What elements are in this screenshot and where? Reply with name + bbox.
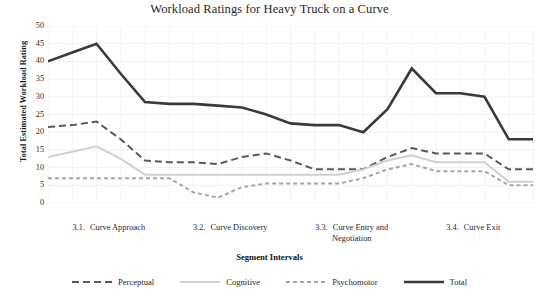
y-axis-tick-15: 15 <box>36 146 44 154</box>
y-axis-tick-40: 40 <box>36 57 44 65</box>
y-axis-tick-5: 5 <box>40 181 44 189</box>
y-axis-tick-45: 45 <box>36 40 44 48</box>
y-axis-tick-20: 20 <box>36 128 44 136</box>
x-axis-group-number: 3.3. <box>315 223 328 232</box>
x-axis-group-label: Curve Discovery <box>211 223 268 232</box>
y-axis-tick-50: 50 <box>36 22 44 30</box>
legend-item-total[interactable]: Total <box>404 277 468 287</box>
legend-item-psychomotor[interactable]: Psychomotor <box>286 277 377 287</box>
x-axis-group-label: Curve Exit <box>464 223 501 232</box>
x-axis-group-label-line2: Negotiation <box>291 233 413 244</box>
y-axis-tick-0: 0 <box>40 199 44 207</box>
legend-item-cognitive[interactable]: Cognitive <box>180 277 260 287</box>
x-axis-group-number: 3.2. <box>193 223 206 232</box>
plot-area <box>48 26 534 203</box>
legend-label-total: Total <box>450 277 468 287</box>
x-axis-title: Segment Intervals <box>0 252 539 262</box>
x-axis-group-label: Curve Approach <box>90 223 145 232</box>
legend-swatch-psychomotor-icon <box>286 277 326 287</box>
y-axis-tick-35: 35 <box>36 75 44 83</box>
x-axis-group-2: 3.2.Curve Discovery <box>170 222 292 233</box>
legend-swatch-cognitive-icon <box>180 277 220 287</box>
x-axis-group-3: 3.3.Curve Entry andNegotiation <box>291 222 413 244</box>
legend-label-perceptual: Perceptual <box>118 277 154 287</box>
gridlines <box>48 26 534 203</box>
y-axis-tick-10: 10 <box>36 163 44 171</box>
x-axis-group-4: 3.4.Curve Exit <box>413 222 535 233</box>
x-axis-group-number: 3.4. <box>446 223 459 232</box>
chart-title: Workload Ratings for Heavy Truck on a Cu… <box>0 2 539 17</box>
x-axis-group-labels: 3.1.Curve Approach3.2.Curve Discovery3.3… <box>0 222 539 256</box>
legend-swatch-perceptual-icon <box>72 277 112 287</box>
x-axis-group-1: 3.1.Curve Approach <box>48 222 170 233</box>
legend-item-perceptual[interactable]: Perceptual <box>72 277 154 287</box>
y-axis-tick-30: 30 <box>36 93 44 101</box>
x-axis-group-number: 3.1. <box>72 223 85 232</box>
y-axis-tick-25: 25 <box>36 110 44 118</box>
legend-label-psychomotor: Psychomotor <box>332 277 377 287</box>
legend-label-cognitive: Cognitive <box>226 277 260 287</box>
x-axis-group-label: Curve Entry and <box>333 223 388 232</box>
chart-legend: PerceptualCognitivePsychomotorTotal <box>0 277 539 287</box>
legend-swatch-total-icon <box>404 277 444 287</box>
chart-container: Workload Ratings for Heavy Truck on a Cu… <box>0 0 539 297</box>
plot-svg <box>48 26 534 203</box>
